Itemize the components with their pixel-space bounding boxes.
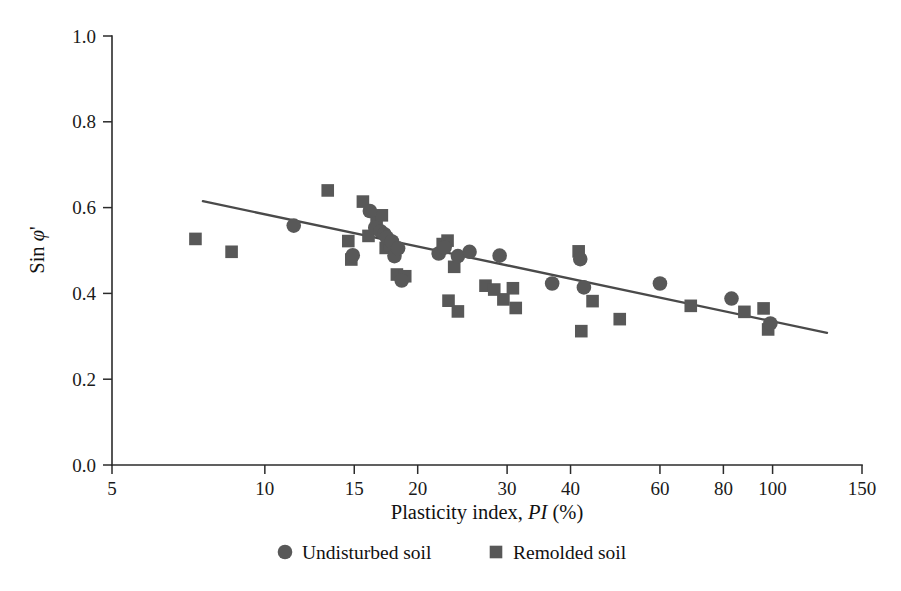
x-tick-label: 150 bbox=[848, 478, 877, 499]
x-axis-title: Plasticity index, PI (%) bbox=[391, 501, 583, 524]
data-point-remolded bbox=[507, 282, 520, 295]
data-point-undisturbed bbox=[391, 241, 406, 256]
x-tick-label: 5 bbox=[107, 478, 117, 499]
undisturbed-soil-points bbox=[286, 204, 777, 331]
y-tick-label: 0.8 bbox=[72, 111, 96, 132]
x-tick-label: 10 bbox=[255, 478, 274, 499]
data-point-undisturbed bbox=[573, 252, 588, 267]
data-point-remolded bbox=[684, 300, 697, 313]
x-tick-label: 30 bbox=[498, 478, 517, 499]
data-point-undisturbed bbox=[363, 204, 378, 219]
x-tick-label: 15 bbox=[345, 478, 364, 499]
data-point-undisturbed bbox=[394, 273, 409, 288]
chart-canvas: 0.00.20.40.60.81.0 510152030406080100150… bbox=[0, 0, 901, 591]
data-point-remolded bbox=[189, 233, 202, 246]
y-tick-label: 0.2 bbox=[72, 369, 96, 390]
data-point-remolded bbox=[442, 294, 455, 307]
data-point-undisturbed bbox=[437, 240, 452, 255]
x-tick-label: 20 bbox=[408, 478, 427, 499]
legend-item-label: Remolded soil bbox=[513, 542, 627, 563]
data-point-undisturbed bbox=[577, 280, 592, 295]
x-tick-label: 60 bbox=[650, 478, 669, 499]
x-axis-ticks: 510152030406080100150 bbox=[107, 465, 876, 499]
data-point-remolded bbox=[575, 325, 588, 338]
data-point-undisturbed bbox=[545, 276, 560, 291]
x-tick-label: 80 bbox=[714, 478, 733, 499]
x-tick-label: 100 bbox=[758, 478, 787, 499]
data-point-undisturbed bbox=[653, 276, 668, 291]
data-point-undisturbed bbox=[286, 218, 301, 233]
data-point-undisturbed bbox=[345, 248, 360, 263]
y-axis-title-group: Sin φ' bbox=[26, 226, 49, 274]
data-point-remolded bbox=[452, 305, 465, 318]
data-point-remolded bbox=[613, 313, 626, 326]
y-axis-title: Sin φ' bbox=[26, 226, 49, 274]
data-point-undisturbed bbox=[462, 244, 477, 259]
data-point-undisturbed bbox=[724, 291, 739, 306]
data-point-remolded bbox=[342, 235, 355, 248]
y-tick-label: 0.6 bbox=[72, 197, 96, 218]
data-point-remolded bbox=[509, 302, 522, 315]
data-point-remolded bbox=[738, 306, 751, 319]
y-tick-label: 1.0 bbox=[72, 26, 96, 47]
data-point-remolded bbox=[757, 302, 770, 315]
y-tick-label: 0.0 bbox=[72, 455, 96, 476]
data-point-remolded bbox=[321, 184, 334, 197]
data-point-remolded bbox=[497, 293, 510, 306]
legend-item-label: Undisturbed soil bbox=[302, 542, 432, 563]
square-marker-icon bbox=[490, 546, 503, 559]
data-point-undisturbed bbox=[763, 316, 778, 331]
y-tick-label: 0.4 bbox=[72, 283, 96, 304]
data-point-remolded bbox=[376, 209, 389, 222]
x-tick-label: 40 bbox=[561, 478, 580, 499]
scatter-plot-figure: 0.00.20.40.60.81.0 510152030406080100150… bbox=[0, 0, 901, 591]
y-axis-ticks: 0.00.20.40.60.81.0 bbox=[72, 26, 112, 476]
chart-legend: Undisturbed soilRemolded soil bbox=[278, 542, 627, 563]
data-point-remolded bbox=[586, 295, 599, 308]
data-point-remolded bbox=[225, 245, 238, 258]
data-point-undisturbed bbox=[492, 248, 507, 263]
circle-marker-icon bbox=[278, 545, 293, 560]
